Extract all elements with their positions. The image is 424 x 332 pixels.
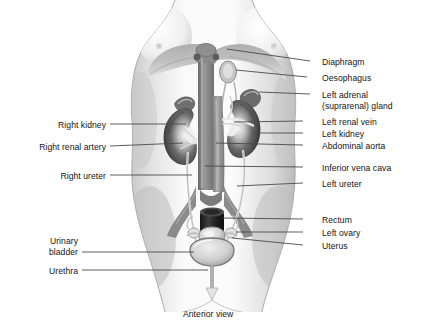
inferior-vena-cava bbox=[212, 96, 224, 192]
label-uterus-line1: Uterus bbox=[322, 241, 348, 252]
label-left-adrenal: Left adrenal(suprarenal) gland bbox=[322, 90, 393, 111]
label-left-ureter-line1: Left ureter bbox=[322, 179, 362, 190]
label-uterus: Uterus bbox=[322, 241, 348, 252]
urinary-bladder bbox=[190, 238, 234, 266]
label-left-renal-vein-line1: Left renal vein bbox=[322, 117, 377, 128]
label-right-renal-artery-line1: Right renal artery bbox=[0, 142, 106, 153]
label-diaphragm-line1: Diaphragm bbox=[322, 57, 364, 68]
label-urinary-bladder-line1: Urinary bbox=[0, 236, 78, 247]
label-right-kidney: Right kidney bbox=[0, 120, 106, 131]
label-abdominal-aorta-line1: Abdominal aorta bbox=[322, 141, 385, 152]
label-left-renal-vein: Left renal vein bbox=[322, 117, 377, 128]
label-right-renal-artery: Right renal artery bbox=[0, 142, 106, 153]
figure-caption: Anterior view bbox=[183, 309, 233, 319]
label-oesophagus-line1: Oesophagus bbox=[322, 73, 371, 84]
label-left-adrenal-line2: (suprarenal) gland bbox=[322, 101, 393, 112]
label-left-ureter: Left ureter bbox=[322, 179, 362, 190]
label-urinary-bladder: Urinarybladder bbox=[0, 236, 78, 257]
label-right-kidney-line1: Right kidney bbox=[0, 120, 106, 131]
label-abdominal-aorta: Abdominal aorta bbox=[322, 141, 385, 152]
flank-shadow-right bbox=[271, 72, 303, 168]
label-rectum: Rectum bbox=[322, 215, 352, 226]
label-inferior-vena-cava: Inferior vena cava bbox=[322, 163, 391, 174]
label-right-ureter-line1: Right ureter bbox=[0, 171, 106, 182]
label-right-ureter: Right ureter bbox=[0, 171, 106, 182]
label-left-kidney-line1: Left kidney bbox=[322, 129, 364, 140]
label-urinary-bladder-line2: bladder bbox=[0, 247, 78, 258]
label-left-kidney: Left kidney bbox=[322, 129, 364, 140]
label-left-ovary-line1: Left ovary bbox=[322, 228, 360, 239]
label-oesophagus: Oesophagus bbox=[322, 73, 371, 84]
label-diaphragm: Diaphragm bbox=[322, 57, 364, 68]
label-urethra: Urethra bbox=[0, 266, 78, 277]
label-left-adrenal-line1: Left adrenal bbox=[322, 90, 393, 101]
hip-shadow-right bbox=[252, 186, 304, 290]
label-rectum-line1: Rectum bbox=[322, 215, 352, 226]
hip-shadow-left bbox=[124, 186, 176, 290]
label-left-ovary: Left ovary bbox=[322, 228, 360, 239]
flank-shadow-left bbox=[125, 72, 157, 168]
label-inferior-vena-cava-line1: Inferior vena cava bbox=[322, 163, 391, 174]
label-urethra-line1: Urethra bbox=[0, 266, 78, 277]
